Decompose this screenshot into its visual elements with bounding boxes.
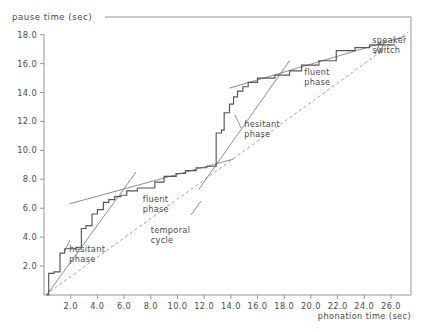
- y-tick-label: 8.0: [23, 174, 37, 184]
- x-tick-label: 20.0: [301, 301, 321, 311]
- chart-title: pause time (sec): [12, 12, 92, 22]
- x-tick-label: 22.0: [328, 301, 348, 311]
- annotation-hesitant-phase-1: phase: [69, 254, 95, 264]
- annotation-hesitant-phase-2: phase: [244, 129, 270, 139]
- x-tick-label: 24.0: [354, 301, 374, 311]
- y-tick-label: 10.0: [17, 145, 37, 155]
- y-tick-label: 16.0: [17, 59, 37, 69]
- y-tick-label: 4.0: [23, 232, 37, 242]
- y-tick-label: 12.0: [17, 116, 37, 126]
- x-tick-label: 12.0: [194, 301, 214, 311]
- x-tick-label: 8.0: [144, 301, 158, 311]
- pause-phonation-step-chart: 2.04.06.08.010.012.014.016.018.0 2.04.06…: [0, 0, 425, 332]
- x-tick-label: 26.0: [381, 301, 401, 311]
- y-tick-label: 2.0: [23, 261, 37, 271]
- annotation-speaker-switch: speaker: [372, 35, 407, 45]
- chart-root: 2.04.06.08.010.012.014.016.018.0 2.04.06…: [0, 0, 425, 332]
- annotation-fluent-phase-2: phase: [304, 77, 330, 87]
- x-tick-label: 2.0: [64, 301, 78, 311]
- annotation-fluent-phase-2: fluent: [304, 67, 330, 77]
- x-tick-label: 16.0: [248, 301, 268, 311]
- y-tick-label: 18.0: [17, 30, 37, 40]
- y-tick-label: 6.0: [23, 203, 37, 213]
- annotation-temporal-cycle: temporal: [151, 225, 191, 235]
- x-tick-label: 6.0: [117, 301, 131, 311]
- x-tick-label: 18.0: [274, 301, 294, 311]
- annotation-hesitant-phase-1: hesitant: [69, 244, 105, 254]
- x-tick-label: 14.0: [221, 301, 241, 311]
- y-tick-label: 14.0: [17, 88, 37, 98]
- annotation-hesitant-phase-2: hesitant: [244, 119, 280, 129]
- annotation-fluent-phase-1: fluent: [143, 194, 169, 204]
- x-tick-label: 4.0: [90, 301, 104, 311]
- annotation-speaker-switch: switch: [372, 45, 400, 55]
- annotation-temporal-cycle: cycle: [151, 235, 174, 245]
- x-axis-label: phonation time (sec): [318, 311, 411, 321]
- x-tick-label: 10.0: [168, 301, 188, 311]
- annotation-fluent-phase-1: phase: [143, 204, 169, 214]
